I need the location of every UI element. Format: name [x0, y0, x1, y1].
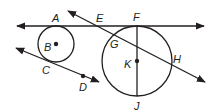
line-cd [16, 48, 99, 82]
center-point-b [54, 42, 58, 46]
point-d [81, 74, 85, 78]
label-j: J [133, 100, 140, 112]
label-k: K [124, 58, 132, 70]
label-c: C [42, 64, 50, 76]
label-h: H [173, 53, 181, 65]
label-g: G [110, 38, 119, 50]
label-e: E [96, 12, 104, 24]
label-a: A [51, 12, 59, 24]
label-b: B [44, 41, 51, 53]
geometry-diagram: A B C D E F G H J K [0, 0, 215, 112]
label-d: D [79, 81, 87, 93]
label-f: F [133, 11, 141, 23]
